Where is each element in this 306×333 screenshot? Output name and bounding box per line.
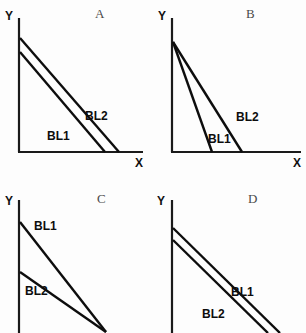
panel-b-label-bl1: BL1 xyxy=(208,133,231,145)
panel-b: B Y X BL1 BL2 xyxy=(153,0,306,170)
panel-c-label-bl1: BL1 xyxy=(34,220,57,232)
panel-d-clip xyxy=(153,170,306,333)
panel-c-y-axis-label: Y xyxy=(5,195,13,207)
panel-a-x-axis-label: X xyxy=(135,157,143,169)
figure-root: A Y X BL1 BL2 B Y X BL1 BL2 C xyxy=(0,0,306,333)
panel-a-letter: A xyxy=(95,7,105,20)
panel-b-y-axis-label: Y xyxy=(158,10,166,22)
panel-c-plot xyxy=(0,170,153,333)
panel-c-letter: C xyxy=(97,192,106,205)
panel-d-line-bl1 xyxy=(173,228,280,333)
panel-c-clip xyxy=(0,170,153,333)
panel-b-x-axis-label: X xyxy=(293,157,301,169)
panel-d-label-bl2: BL2 xyxy=(202,308,225,320)
panel-d-plot xyxy=(153,170,306,333)
panel-c-line-bl1 xyxy=(20,222,106,332)
panel-a: A Y X BL1 BL2 xyxy=(0,0,153,170)
panel-d-y-axis-label: Y xyxy=(157,195,165,207)
panel-c-label-bl2: BL2 xyxy=(25,285,48,297)
panel-a-y-axis-label: Y xyxy=(5,10,13,22)
panel-a-label-bl1: BL1 xyxy=(47,130,70,142)
panel-d: D Y BL1 BL2 xyxy=(153,170,306,333)
panel-b-letter: B xyxy=(246,7,255,20)
panel-a-plot xyxy=(0,0,153,170)
panel-a-label-bl2: BL2 xyxy=(85,110,108,122)
panel-d-label-bl1: BL1 xyxy=(231,286,254,298)
panel-c-line-bl2 xyxy=(20,272,106,332)
panel-c: C Y BL1 BL2 xyxy=(0,170,153,333)
panel-a-clip xyxy=(0,0,153,170)
panel-d-letter: D xyxy=(248,192,258,205)
panel-b-label-bl2: BL2 xyxy=(236,111,259,123)
